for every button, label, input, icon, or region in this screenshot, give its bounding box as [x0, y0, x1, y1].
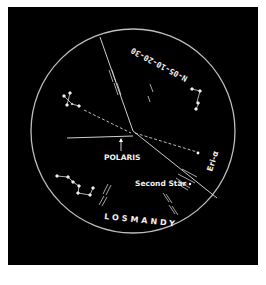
- constellation-lower-left: [56, 175, 95, 197]
- dashed-line-left: [84, 110, 131, 133]
- second-star-dot: [189, 183, 191, 185]
- constellation-upper-left: [63, 92, 81, 108]
- eri-alpha-star: [197, 152, 200, 155]
- reticle-line-upper: [100, 37, 133, 131]
- second-star-label: Second Star: [135, 179, 186, 188]
- polar-scope-reticle: POLARIS Second Star Eri-α N-05-10-20-30 …: [0, 0, 266, 285]
- polaris-label: POLARIS: [104, 153, 140, 162]
- polaris-arrow-icon: [119, 138, 123, 142]
- reticle-line-left: [67, 136, 133, 138]
- brand-label: LOSMANDY: [104, 212, 179, 229]
- eri-alpha-label: Eri-α: [205, 149, 220, 172]
- date-code-label: N-05-10-20-30: [129, 46, 189, 83]
- constellation-upper-right: [191, 88, 202, 111]
- tick-marks-lower-left: [99, 184, 111, 206]
- tick-marks-right: [163, 169, 197, 215]
- dashed-line-right: [135, 133, 197, 152]
- tick-marks-upper: [109, 70, 153, 102]
